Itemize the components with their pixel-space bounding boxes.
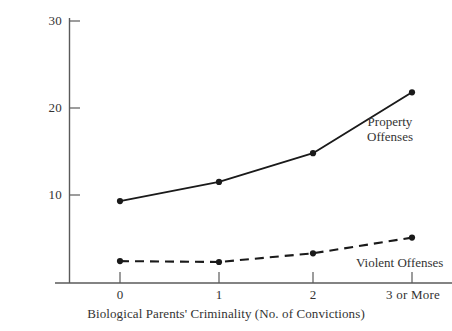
data-point — [216, 259, 222, 265]
data-point — [409, 89, 415, 95]
y-tick-label-20: 20 — [32, 100, 62, 116]
series-label-property-line2: Offenses — [367, 129, 413, 144]
y-axis-title: % of Sons — [0, 93, 3, 173]
data-point — [117, 258, 123, 264]
series-label-property-line1: Property — [367, 114, 413, 129]
data-point — [409, 235, 415, 241]
x-tick-label-0: 0 — [117, 287, 124, 303]
data-point — [310, 150, 316, 156]
chart-container: 30 20 10 0 1 2 3 or More % of Sons Biolo… — [0, 0, 452, 331]
x-tick-label-2: 2 — [310, 287, 317, 303]
data-point — [216, 179, 222, 185]
series-label-violent-offenses: Violent Offenses — [356, 255, 443, 270]
x-tick-label-3-or-more: 3 or More — [386, 287, 440, 303]
x-axis-title: Biological Parents' Criminality (No. of … — [0, 306, 452, 322]
x-tick-label-1: 1 — [216, 287, 223, 303]
chart-plot-area — [0, 0, 452, 331]
data-point — [117, 198, 123, 204]
series-line-property-offenses — [120, 92, 412, 201]
series-markers-property-offenses — [117, 89, 415, 204]
data-point — [310, 250, 316, 256]
series-label-property-offenses: Property Offenses — [367, 114, 413, 145]
y-tick-label-10: 10 — [32, 187, 62, 203]
y-tick-label-30: 30 — [32, 13, 62, 29]
